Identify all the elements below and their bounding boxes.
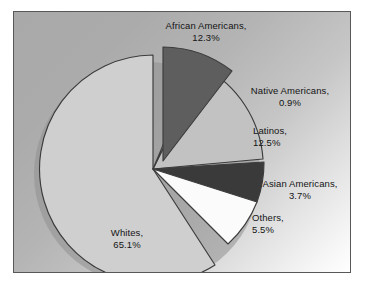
slice-label-asian-americans-name: Asian Americans, bbox=[244, 178, 351, 190]
slice-label-asian-americans-value: 3.7% bbox=[244, 190, 351, 202]
chart-panel: African Americans, 12.3% Native American… bbox=[13, 11, 351, 273]
slice-label-african-americans: African Americans, 12.3% bbox=[151, 20, 261, 43]
slice-label-whites: Whites, 65.1% bbox=[79, 227, 175, 250]
slice-label-latinos: Latinos, 12.5% bbox=[253, 125, 343, 148]
pie-chart-figure: African Americans, 12.3% Native American… bbox=[0, 0, 366, 289]
plot-area: African Americans, 12.3% Native American… bbox=[14, 12, 350, 272]
slice-label-african-americans-name: African Americans, bbox=[151, 20, 261, 32]
slice-label-asian-americans: Asian Americans, 3.7% bbox=[244, 178, 351, 201]
slice-label-whites-value: 65.1% bbox=[79, 239, 175, 251]
slice-label-native-americans-name: Native Americans, bbox=[232, 85, 348, 97]
slice-label-others: Others, 5.5% bbox=[252, 212, 332, 235]
slice-label-african-americans-value: 12.3% bbox=[151, 32, 261, 44]
slice-label-others-value: 5.5% bbox=[252, 224, 332, 236]
slice-label-native-americans-value: 0.9% bbox=[232, 97, 348, 109]
slice-label-latinos-value: 12.5% bbox=[253, 137, 343, 149]
slice-label-latinos-name: Latinos, bbox=[253, 125, 343, 137]
slice-label-whites-name: Whites, bbox=[79, 227, 175, 239]
slice-label-native-americans: Native Americans, 0.9% bbox=[232, 85, 348, 108]
slice-label-others-name: Others, bbox=[252, 212, 332, 224]
